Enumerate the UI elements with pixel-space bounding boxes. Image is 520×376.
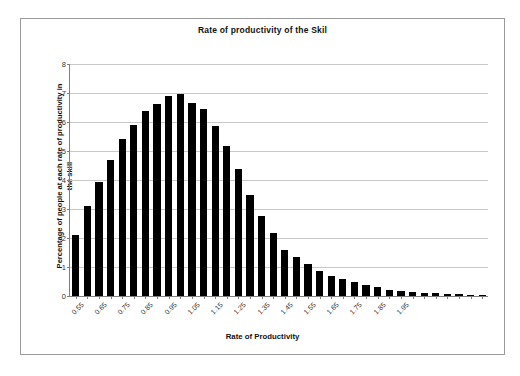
x-tick-label: 1.35 [256, 301, 271, 316]
x-tick-mark [192, 296, 193, 299]
x-tick-mark [389, 296, 390, 299]
x-tick-mark [331, 296, 332, 299]
x-tick-label: 1.65 [326, 301, 341, 316]
x-tick-label: 1.85 [372, 301, 387, 316]
bar [374, 287, 381, 296]
bar [95, 182, 102, 296]
bar [212, 126, 219, 296]
y-tick-mark [67, 296, 70, 297]
x-tick-label: 1.15 [209, 301, 224, 316]
x-tick-mark [343, 296, 344, 299]
x-tick-mark [308, 296, 309, 299]
bar [235, 169, 242, 296]
x-tick-mark [99, 296, 100, 299]
y-tick-label: 3 [62, 205, 66, 214]
bar [328, 276, 335, 296]
x-tick-label: 1.45 [279, 301, 294, 316]
x-tick-mark [157, 296, 158, 299]
bar [258, 216, 265, 296]
x-tick-mark [145, 296, 146, 299]
x-tick-mark [134, 296, 135, 299]
x-tick-mark [76, 296, 77, 299]
bar [177, 94, 184, 296]
x-tick-mark [250, 296, 251, 299]
x-tick-mark [413, 296, 414, 299]
x-tick-mark [87, 296, 88, 299]
gridline [70, 122, 488, 123]
y-tick-mark [67, 151, 70, 152]
y-tick-label: 4 [62, 176, 66, 185]
bar [200, 109, 207, 296]
x-tick-label: 1.05 [186, 301, 201, 316]
bar [84, 206, 91, 296]
y-tick-mark [67, 122, 70, 123]
chart-container: Rate of productivity of the Skil Percent… [20, 18, 505, 355]
x-tick-mark [238, 296, 239, 299]
bar [270, 233, 277, 296]
x-tick-mark [320, 296, 321, 299]
x-tick-mark [459, 296, 460, 299]
y-tick-mark [67, 209, 70, 210]
plot-area: 012345678 0.550.650.750.850.951.051.151.… [69, 64, 488, 297]
x-tick-mark [169, 296, 170, 299]
bar [293, 257, 300, 296]
gridline [70, 64, 488, 65]
y-tick-label: 1 [62, 263, 66, 272]
x-axis-title: Rate of Productivity [21, 332, 504, 341]
y-tick-label: 8 [62, 60, 66, 69]
chart-title: Rate of productivity of the Skil [21, 25, 504, 35]
bar [304, 264, 311, 296]
x-tick-mark [122, 296, 123, 299]
gridline [70, 93, 488, 94]
x-tick-mark [273, 296, 274, 299]
bar [351, 282, 358, 296]
x-tick-label: 0.65 [93, 301, 108, 316]
bar [316, 271, 323, 296]
x-tick-label: 0.85 [140, 301, 155, 316]
y-tick-label: 2 [62, 234, 66, 243]
y-tick-mark [67, 180, 70, 181]
x-tick-mark [424, 296, 425, 299]
bar [223, 146, 230, 296]
bar [339, 279, 346, 296]
x-tick-label: 1.95 [395, 301, 410, 316]
bar [153, 104, 160, 296]
x-tick-mark [482, 296, 483, 299]
bar [142, 111, 149, 296]
y-tick-mark [67, 93, 70, 94]
bar [165, 96, 172, 296]
bar [246, 195, 253, 296]
x-tick-label: 1.75 [349, 301, 364, 316]
x-tick-mark [227, 296, 228, 299]
x-tick-mark [180, 296, 181, 299]
x-tick-mark [378, 296, 379, 299]
bar [119, 139, 126, 296]
y-tick-mark [67, 238, 70, 239]
x-tick-label: 0.75 [117, 301, 132, 316]
x-tick-label: 0.55 [70, 301, 85, 316]
bar [107, 160, 114, 296]
x-tick-mark [262, 296, 263, 299]
x-tick-mark [401, 296, 402, 299]
x-tick-mark [447, 296, 448, 299]
x-tick-mark [296, 296, 297, 299]
bar [188, 103, 195, 296]
x-tick-label: 0.95 [163, 301, 178, 316]
bar [281, 250, 288, 296]
x-tick-mark [215, 296, 216, 299]
x-tick-mark [366, 296, 367, 299]
bar [362, 285, 369, 296]
x-tick-label: 1.25 [233, 301, 248, 316]
x-tick-mark [354, 296, 355, 299]
y-tick-label: 5 [62, 147, 66, 156]
x-tick-label: 1.55 [302, 301, 317, 316]
bar [130, 125, 137, 296]
y-tick-mark [67, 267, 70, 268]
bar [72, 235, 79, 296]
y-tick-label: 6 [62, 118, 66, 127]
x-tick-mark [285, 296, 286, 299]
y-tick-label: 7 [62, 89, 66, 98]
y-tick-label: 0 [62, 292, 66, 301]
x-tick-mark [204, 296, 205, 299]
x-tick-mark [436, 296, 437, 299]
